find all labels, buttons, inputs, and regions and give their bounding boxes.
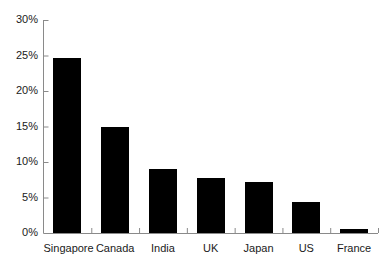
x-axis-tick-label: Singapore <box>44 242 92 254</box>
x-axis-tick-label: UK <box>187 242 235 254</box>
x-axis-tick-label: France <box>330 242 378 254</box>
x-axis-tick-labels: SingaporeCanadaIndiaUKJapanUSFrance <box>0 0 388 266</box>
x-axis-tick-label: Japan <box>235 242 283 254</box>
x-axis-tick-label: US <box>282 242 330 254</box>
x-axis-tick-label: Canada <box>91 242 139 254</box>
bar-chart: 0%5%10%15%20%25%30% SingaporeCanadaIndia… <box>0 0 388 266</box>
x-axis-tick-label: India <box>139 242 187 254</box>
